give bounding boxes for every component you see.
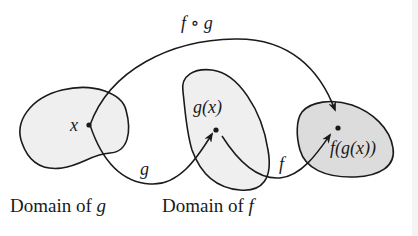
f-arrow-label: f — [279, 155, 284, 173]
domain-g-caption: Domain of g — [10, 196, 106, 215]
f-of-g-of-x-label: f(g(x)) — [330, 139, 376, 157]
g-arrow-label: g — [140, 160, 149, 178]
domain-f-caption: Domain of f — [162, 196, 254, 215]
x-label: x — [70, 116, 78, 134]
page-edge — [412, 0, 418, 236]
domain-g-caption-var: g — [97, 195, 107, 216]
composition-diagram: f ∘ g x g(x) f(g(x)) g f Domain of g Dom… — [0, 0, 418, 236]
domain-f-caption-text: Domain of — [162, 195, 249, 216]
g-of-x-label: g(x) — [193, 98, 222, 116]
domain-g-caption-text: Domain of — [10, 195, 97, 216]
point-x — [86, 122, 91, 127]
point-g-of-x — [213, 127, 218, 132]
domain-f-caption-var: f — [249, 195, 254, 216]
point-f-of-g-of-x — [335, 125, 340, 130]
composition-label: f ∘ g — [181, 14, 213, 32]
